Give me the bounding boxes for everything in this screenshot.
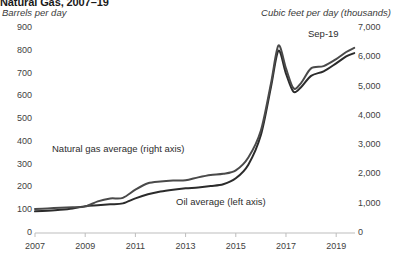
x-axis-tick-label: 2015 <box>216 242 256 251</box>
x-axis-tick-label: 2013 <box>166 242 206 251</box>
chart-root: Natural Gas, 2007–19 Barrels per day Cub… <box>0 0 393 259</box>
series-label-oil: Oil average (left axis) <box>176 196 266 207</box>
x-axis-tick-label: 2011 <box>115 242 155 251</box>
series-label-natural-gas: Natural gas average (right axis) <box>52 143 185 154</box>
x-axis-tick-label: 2007 <box>15 242 55 251</box>
x-axis-tick-label: 2017 <box>266 242 306 251</box>
annotation-sep-19: Sep-19 <box>308 28 339 39</box>
x-axis-tick-label: 2019 <box>316 242 356 251</box>
x-axis-tick-label: 2009 <box>65 242 105 251</box>
